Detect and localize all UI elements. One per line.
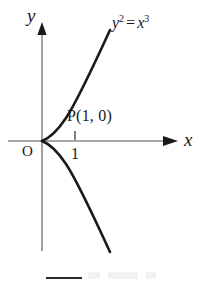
plot-canvas <box>0 0 206 281</box>
fragment-ghost-1 <box>88 272 100 279</box>
fragment-rule <box>46 277 82 279</box>
y-axis-arrowhead <box>37 22 46 35</box>
origin-label: O <box>22 144 33 159</box>
equation-x-exponent: 3 <box>144 13 149 24</box>
point-p-label: P(1, 0) <box>67 108 112 124</box>
x-axis-arrowhead <box>163 136 178 146</box>
curve-upper-branch <box>42 30 110 141</box>
fragment-ghost-2 <box>108 272 138 279</box>
curve-equation-label: y2=x3 <box>112 15 149 31</box>
fragment-ghost-3 <box>146 272 156 279</box>
equation-equals-sign: = <box>124 14 137 31</box>
bottom-cropped-text-fragment <box>44 272 162 281</box>
y-axis-label: y <box>27 6 35 25</box>
semicubical-parabola-figure: y x y2=x3 O P(1, 0) 1 <box>0 0 206 281</box>
x-axis-label: x <box>184 130 192 149</box>
x-tick-label-1: 1 <box>71 146 79 162</box>
